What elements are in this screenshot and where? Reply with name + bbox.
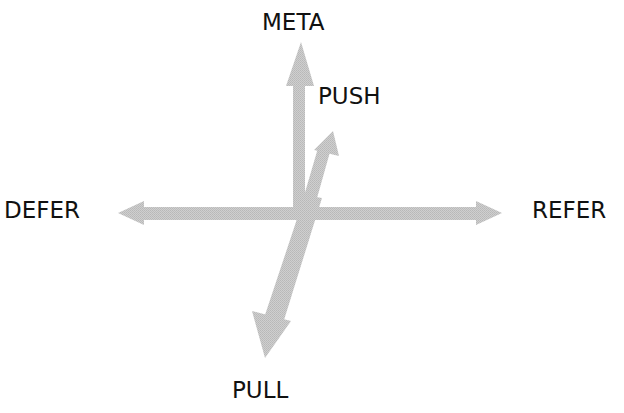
meta-label: META [262, 11, 324, 34]
pull-label: PULL [232, 379, 288, 402]
defer-arrow-icon [118, 201, 302, 225]
arrows-layer [0, 0, 624, 413]
axis-diagram: META PUSH DEFER REFER PULL [0, 0, 624, 413]
defer-label: DEFER [4, 199, 80, 222]
refer-label: REFER [532, 199, 606, 222]
refer-arrow-icon [300, 201, 502, 225]
push-label: PUSH [318, 85, 381, 108]
